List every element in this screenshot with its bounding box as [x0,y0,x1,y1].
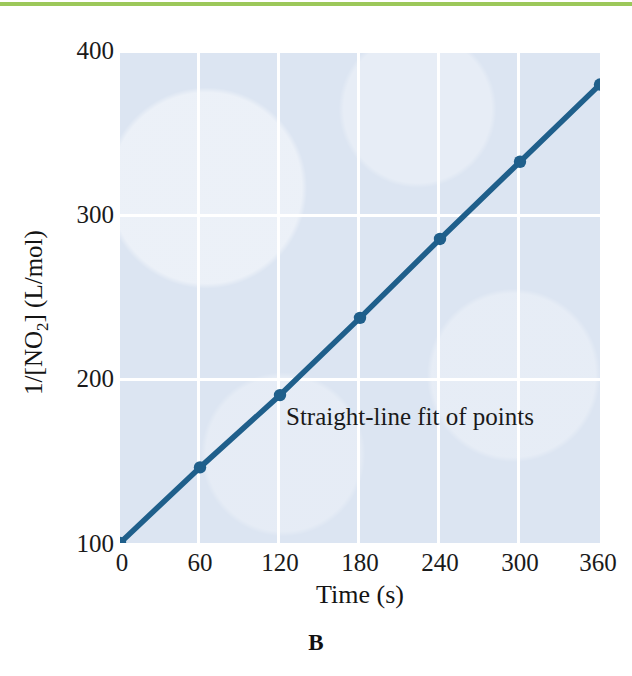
figure-panel-b: 400 300 200 100 1/[NO2] (L/mol) Straight… [0,0,632,676]
data-point-marker [354,312,366,324]
x-axis-title: Time (s) [120,580,600,610]
y-axis-title: 1/[NO2] (L/mol) [20,143,53,483]
y-tick-label-200: 200 [58,366,114,391]
data-point-marker [514,156,526,168]
data-point-marker [274,389,286,401]
panel-letter-label: B [0,630,632,656]
x-tick-label-360: 360 [563,550,632,575]
x-tick-label-0: 0 [87,550,157,575]
data-series-line [120,50,600,543]
x-tick-label-240: 240 [405,550,475,575]
y-tick-label-400: 400 [58,38,114,63]
x-tick-label-60: 60 [165,550,235,575]
y-axis-title-subscript: 2 [33,322,52,331]
x-tick-label-120: 120 [245,550,315,575]
plot-area: Straight-line fit of points [120,50,600,543]
data-point-marker [434,233,446,245]
data-point-marker [194,461,206,473]
x-tick-label-180: 180 [325,550,395,575]
x-tick-label-300: 300 [485,550,555,575]
straight-line-fit-annotation: Straight-line fit of points [286,403,534,431]
y-tick-label-300: 300 [58,202,114,227]
